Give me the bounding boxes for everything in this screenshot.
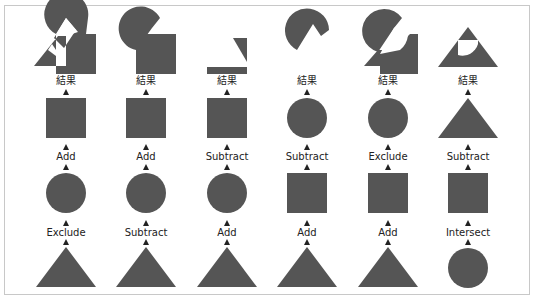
operation-label: Subtract bbox=[447, 151, 490, 162]
operation-label: Intersect bbox=[446, 227, 490, 238]
operation-label: Subtract bbox=[206, 151, 249, 162]
arrow-up-icon bbox=[385, 220, 391, 226]
column-5: 結果 Subtract Intersect bbox=[438, 27, 498, 288]
arrow-up-icon bbox=[385, 164, 391, 170]
operation-label: Exclude bbox=[46, 227, 85, 238]
square-shape bbox=[126, 98, 166, 138]
triangle-shape bbox=[358, 247, 418, 287]
circle-shape bbox=[207, 173, 247, 213]
operation-label: Add bbox=[136, 151, 155, 162]
arrow-up-icon bbox=[465, 144, 471, 150]
arrow-up-icon bbox=[143, 220, 149, 226]
triangle-shape bbox=[277, 247, 337, 287]
circle-shape bbox=[46, 173, 86, 213]
column-4: 結果 Exclude Add bbox=[358, 9, 418, 287]
arrow-up-icon bbox=[143, 89, 149, 95]
result-shape-1 bbox=[119, 7, 176, 74]
square-shape bbox=[46, 98, 86, 138]
arrow-up-icon bbox=[304, 89, 310, 95]
square-shape bbox=[287, 173, 327, 213]
circle-shape bbox=[287, 98, 327, 138]
result-label: 結果 bbox=[136, 74, 156, 86]
operation-label: Add bbox=[217, 227, 236, 238]
arrow-up-icon bbox=[224, 220, 230, 226]
arrow-up-icon bbox=[385, 239, 391, 245]
arrow-up-icon bbox=[465, 239, 471, 245]
boolean-operations-diagram: 結果 Add Exclude 結果 Add Su bbox=[0, 0, 537, 302]
operation-label: Add bbox=[378, 227, 397, 238]
arrow-up-icon bbox=[63, 144, 69, 150]
result-shape-2 bbox=[207, 38, 247, 74]
arrow-up-icon bbox=[304, 164, 310, 170]
arrow-up-icon bbox=[304, 220, 310, 226]
operation-label: Add bbox=[297, 227, 316, 238]
arrow-up-icon bbox=[224, 89, 230, 95]
result-label: 結果 bbox=[297, 74, 317, 86]
result-label: 結果 bbox=[458, 74, 478, 86]
arrow-up-icon bbox=[224, 144, 230, 150]
result-label: 結果 bbox=[56, 74, 76, 86]
result-shape-5 bbox=[438, 27, 498, 67]
arrow-up-icon bbox=[63, 220, 69, 226]
column-2: 結果 Subtract Add bbox=[197, 38, 257, 287]
arrow-up-icon bbox=[304, 239, 310, 245]
arrow-up-icon bbox=[304, 144, 310, 150]
result-label: 結果 bbox=[217, 74, 237, 86]
triangle-shape bbox=[197, 247, 257, 287]
arrow-up-icon bbox=[143, 144, 149, 150]
triangle-shape bbox=[36, 247, 96, 287]
arrow-up-icon bbox=[63, 239, 69, 245]
result-label: 結果 bbox=[378, 74, 398, 86]
result-shape-4 bbox=[362, 9, 418, 74]
arrow-up-icon bbox=[63, 164, 69, 170]
arrow-up-icon bbox=[224, 164, 230, 170]
circle-shape bbox=[126, 173, 166, 213]
circle-shape bbox=[368, 98, 408, 138]
circle-shape bbox=[448, 248, 488, 288]
arrow-up-icon bbox=[143, 239, 149, 245]
arrow-up-icon bbox=[385, 144, 391, 150]
operation-label: Add bbox=[56, 151, 75, 162]
arrow-up-icon bbox=[63, 89, 69, 95]
column-3: 結果 Subtract Add bbox=[277, 8, 337, 287]
result-shape-3 bbox=[285, 8, 329, 50]
operation-label: Subtract bbox=[125, 227, 168, 238]
result-shape-0 bbox=[34, 0, 96, 74]
arrow-up-icon bbox=[224, 239, 230, 245]
square-shape bbox=[448, 173, 488, 213]
arrow-up-icon bbox=[465, 220, 471, 226]
column-1: 結果 Add Subtract bbox=[116, 7, 176, 287]
arrow-up-icon bbox=[385, 89, 391, 95]
operation-label: Exclude bbox=[368, 151, 407, 162]
arrow-up-icon bbox=[465, 89, 471, 95]
arrow-up-icon bbox=[143, 164, 149, 170]
triangle-shape bbox=[116, 247, 176, 287]
operation-label: Subtract bbox=[286, 151, 329, 162]
square-shape bbox=[368, 173, 408, 213]
square-shape bbox=[207, 98, 247, 138]
arrow-up-icon bbox=[465, 164, 471, 170]
triangle-shape bbox=[438, 98, 498, 138]
column-0: 結果 Add Exclude bbox=[34, 0, 96, 287]
